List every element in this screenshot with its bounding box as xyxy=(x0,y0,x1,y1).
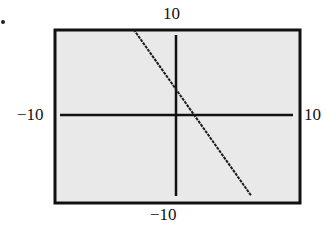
graph-window xyxy=(0,0,326,225)
plot-background xyxy=(55,30,300,203)
